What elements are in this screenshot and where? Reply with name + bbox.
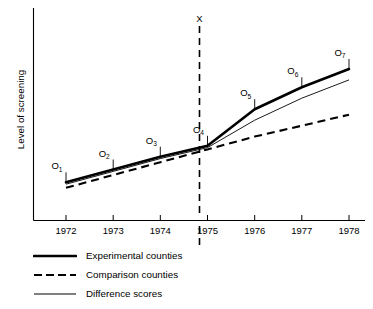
observation-label-subscript: 6 (295, 71, 299, 78)
x-axis-ticks: 1972197319741975197619771978 (55, 215, 359, 236)
solid-thick-line-icon (33, 250, 77, 262)
legend-item-difference-scores: Difference scores (33, 284, 273, 303)
legend-item-experimental-counties: Experimental counties (33, 246, 273, 265)
observation-label-O5: O5 (240, 87, 251, 99)
legend-label-experimental-counties: Experimental counties (77, 250, 182, 261)
chart-legend: Experimental counties Comparison countie… (33, 246, 273, 303)
legend-item-comparison-counties: Comparison counties (33, 265, 273, 284)
series-group (66, 69, 349, 188)
observation-label-subscript: 7 (342, 52, 346, 59)
observation-label-O1: O1 (51, 160, 62, 172)
x-axis-tick-label-1973: 1973 (103, 225, 124, 236)
difference-scores-line (66, 80, 349, 184)
comparison-counties-line (66, 115, 349, 188)
legend-label-difference-scores: Difference scores (77, 288, 162, 299)
observation-label-subscript: 1 (59, 166, 63, 173)
observation-label-subscript: 4 (200, 129, 204, 136)
intervention-label: X (196, 13, 203, 24)
x-axis-tick-label-1977: 1977 (291, 225, 312, 236)
solid-thin-line-icon (33, 288, 77, 300)
interrupted-time-series-chart: Level of screening 197219731974197519761… (0, 0, 373, 309)
x-axis-tick-label-1978: 1978 (338, 225, 359, 236)
observation-label-O4: O4 (193, 124, 204, 136)
x-axis-tick-label-1974: 1974 (150, 225, 171, 236)
observation-label-subscript: 5 (248, 93, 252, 100)
dashed-line-icon (33, 269, 77, 281)
legend-label-comparison-counties: Comparison counties (77, 269, 178, 280)
observation-label-subscript: 2 (106, 153, 110, 160)
observation-label-O2: O2 (99, 148, 110, 160)
x-axis-tick-label-1972: 1972 (55, 225, 76, 236)
observation-label-O6: O6 (287, 65, 298, 77)
observation-label-O3: O3 (146, 135, 157, 147)
x-axis-tick-label-1976: 1976 (244, 225, 265, 236)
observation-label-O7: O7 (334, 47, 345, 59)
observation-label-subscript: 3 (153, 140, 157, 147)
